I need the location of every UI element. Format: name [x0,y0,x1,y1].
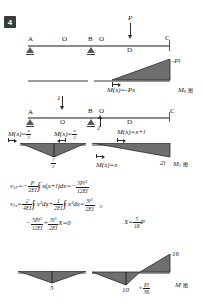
eq1-integral-lower-limit: 0 [38,185,40,189]
beam-top-point-B: B [88,36,93,43]
eq1-result-numerator-exponent: 3 [85,179,87,184]
beam-unit-diagram: 1 A O B O D C 1 [0,96,202,130]
m1-mid-x-tick [65,138,66,142]
eq2-coefficient1-fraction: 24EI [22,198,32,212]
m-multiplier-numerator: Pl [143,282,151,289]
beam-top-member [28,45,170,47]
m0-area-shape [112,59,172,81]
equation-line-1: v1P=−P2EI∫0x(x+l)dx=−5Pl312EI [10,179,89,194]
m-multiplier-denominator: 36 [143,289,151,295]
support-ground-B2 [87,126,95,128]
eq3-term2-fraction: 3l32EI [48,216,58,231]
m1-eq-mid-denominator: 2 [72,135,77,141]
eq3-term2-numerator: 3l3 [48,216,58,225]
eq1-coefficient-denominator: 2EI [28,187,38,193]
m1-diagram-title: M1 图 [173,161,188,169]
m-right-value-label: 16 [172,251,179,258]
m1-left-peak-numerator: l [51,157,56,164]
beam-top-support-A [26,47,34,55]
support-triangle-B-icon [87,47,95,53]
support-triangle-A-icon [26,47,34,53]
support-triangle-B2-icon [87,119,95,125]
eq1-result-numerator-base: 5Pl [77,180,85,186]
m1-left-peak-value: l 2 [51,157,56,170]
beam-unit-load-down-label: 1 [57,95,61,102]
beam-top-point-O2: O [99,36,104,43]
eq1-result-numerator: 5Pl3 [76,179,89,188]
result-numerator: 5 [133,216,141,223]
eq2-integrand1: x²dx+ [37,200,54,208]
eq2-coefficient1-numerator: 2 [22,198,32,205]
beam-top-diagram: P A O B O C D [0,14,202,56]
m1-eq-left-text: M(x)= [8,130,26,138]
m1-eq-mid-numerator: x [72,128,77,135]
eq2-result-fraction: 3l32EI [85,197,95,212]
eq1-equals-sign: =− [18,182,27,190]
m1-equation-right: M(x)=x+l [117,129,145,136]
m1-right-x-arrowhead [123,139,126,143]
m1-title-subscript: 1 [179,163,181,168]
beam-top-point-D: D [127,47,132,54]
eq2-result-denominator: 2EI [85,206,95,212]
eq2-integral2-lower-limit: 0 [64,203,66,207]
equation-line-3: −5Pl312EI+3l32EIX=0 [26,216,71,231]
m1-eq-left-denominator: 2 [26,135,31,141]
m1-eq-left-fraction: x2 [26,128,31,141]
eq2-integrand2: x²dx= [68,200,85,208]
m1-diagram: M(x)=x2 M(x)=x2 M(x)=x+l l 2 [0,128,202,172]
eq3-tail: X=0 [58,219,71,227]
m1-equation-left: M(x)=x2 [8,128,31,141]
beam-unit-support-A [26,119,34,127]
m0-diagram-title: M0 图 [178,87,193,95]
equation-line-2: v1x=24EI∫0x²dx+12EI∫0x²dx=3l32EI [10,197,95,212]
eq2-integral1-lower-limit: 0 [33,203,35,207]
eq2-integral2-upper-limit: 2l [99,204,102,209]
m0-baseline-left [28,80,88,82]
beam-top-point-A: A [28,36,33,43]
m1-eq-mid-text: M(x)= [54,130,72,138]
beam-unit-point-A: A [28,109,33,116]
m1-eq-left-numerator: x [26,128,31,135]
beam-unit-point-C: C [170,108,175,115]
result-denominator: 18 [133,223,141,229]
support-triangle-A2-icon [26,119,34,125]
eq1-coefficient-fraction: P2EI [28,180,38,194]
m0-equation: M(x)=-Px [107,87,135,94]
m1-left-peak-denominator: 2 [51,164,56,170]
equation-result: X=518P [124,216,145,230]
m0-peak-label: -Pl [172,58,181,65]
m-multiplier-fraction: Pl36 [143,282,151,296]
beam-top-support-B [87,47,95,55]
support-ground-A [26,54,34,56]
m-final-diagram: 5 10 16 ×Pl36 M 图 [0,258,202,304]
m0-diagram: -Pl M(x)=-Px M0 图 [0,60,202,98]
m1-title-cjk: 图 [183,161,188,167]
eq3-term1-denominator: 12EI [31,225,44,231]
beam-unit-point-D: D [127,119,132,126]
beam-top-point-O1: O [62,36,67,43]
m-diagram-title: M 图 [175,282,188,289]
result-lhs: X= [124,218,133,226]
beam-unit-end-tick-C [169,112,170,122]
m0-title-subscript: 0 [184,89,186,94]
m-title-cjk: 图 [183,282,188,288]
beam-unit-load-down-arrowhead [60,106,64,110]
support-ground-A2 [26,126,34,128]
eq2-coefficient2-numerator: 1 [53,198,63,205]
beam-unit-support-B [87,119,95,127]
eq2-result-numerator-exponent: 3 [91,197,93,202]
eq2-integral1-upper-limit: l [46,204,47,209]
beam-unit-point-O1: O [60,119,65,126]
equation-block: v1P=−P2EI∫0x(x+l)dx=−5Pl312EI l v1x=24EI… [0,176,202,234]
beam-unit-point-B: B [88,108,93,115]
eq1-coefficient-numerator: P [28,180,38,187]
eq3-term1-numerator-exponent: 3 [40,216,42,221]
beam-unit-point-O2: O [99,108,104,115]
figure-page: 4 P A O B O C D [0,0,202,305]
eq3-term1-numerator: 5Pl3 [31,216,44,225]
m1-left-x-arrowhead [14,139,17,143]
m0-title-cjk: 图 [188,87,193,93]
eq3-term2-numerator-exponent: 3 [54,216,56,221]
m1-bottom-x-arrowhead [102,155,105,159]
eq2-coefficient2-denominator: 2EI [53,205,63,211]
